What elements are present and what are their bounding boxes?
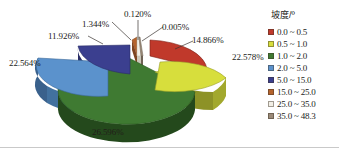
legend-swatch-icon-1	[268, 41, 274, 47]
legend-label-6: 25.0 ~ 35.0	[277, 99, 316, 109]
legend-label-1: 0.5 ~ 1.0	[277, 39, 307, 49]
legend-label-2: 1.0 ~ 2.0	[277, 51, 307, 61]
pie-chart-svg	[0, 0, 262, 148]
slice-label-15.0-25.0: 1.344%	[82, 19, 109, 29]
legend-swatch-icon-6	[268, 101, 274, 107]
legend-item-2[interactable]: 1.0 ~ 2.0	[268, 50, 339, 62]
legend-label-3: 2.0 ~ 5.0	[277, 63, 307, 73]
legend-label-0: 0.0 ~ 0.5	[277, 27, 307, 37]
legend-item-7[interactable]: 35.0 ~ 48.3	[268, 110, 339, 122]
leader-line-0.005	[142, 27, 163, 41]
legend-label-5: 15.0 ~ 25.0	[277, 87, 316, 97]
legend-swatch-icon-3	[268, 65, 274, 71]
slice-label-5.0-15.0: 11.926%	[48, 31, 79, 41]
slice-label-0.0-0.5: 14.866%	[192, 35, 224, 45]
legend-label-4: 5.0 ~ 15.0	[277, 75, 311, 85]
leader-line-11.926	[88, 36, 103, 44]
slice-label-35.0-48.3: 0.005%	[162, 22, 189, 32]
legend-swatch-icon-7	[268, 113, 274, 119]
legend-swatch-icon-4	[268, 77, 274, 83]
legend-item-3[interactable]: 2.0 ~ 5.0	[268, 62, 339, 74]
slice-label-2.0-5.0: 22.564%	[9, 58, 41, 68]
legend-swatch-icon-2	[268, 53, 274, 59]
legend-swatch-icon-0	[268, 29, 274, 35]
pie-chart-figure: 0.120% 1.344% 0.005% 11.926% 14.866% 22.…	[0, 0, 339, 148]
slice-label-25.0-35.0: 0.120%	[124, 9, 151, 19]
legend-item-4[interactable]: 5.0 ~ 15.0	[268, 74, 339, 86]
slice-label-0.5-1.0: 22.578%	[232, 52, 264, 62]
leader-line-1.344	[112, 22, 131, 40]
legend-item-6[interactable]: 25.0 ~ 35.0	[268, 98, 339, 110]
pie-plot-area: 0.120% 1.344% 0.005% 11.926% 14.866% 22.…	[0, 0, 262, 148]
slice-label-1.0-2.0: 26.596%	[92, 127, 124, 137]
legend-title: 坡度/º	[271, 8, 339, 21]
legend-swatch-icon-5	[268, 89, 274, 95]
slice-top-0.5-1.0-fill	[155, 61, 226, 91]
legend-label-7: 35.0 ~ 48.3	[277, 111, 316, 121]
legend-item-5[interactable]: 15.0 ~ 25.0	[268, 86, 339, 98]
legend: 坡度/º 0.0 ~ 0.5 0.5 ~ 1.0 1.0 ~ 2.0 2.0 ~…	[268, 8, 339, 122]
legend-item-0[interactable]: 0.0 ~ 0.5	[268, 26, 339, 38]
legend-item-1[interactable]: 0.5 ~ 1.0	[268, 38, 339, 50]
